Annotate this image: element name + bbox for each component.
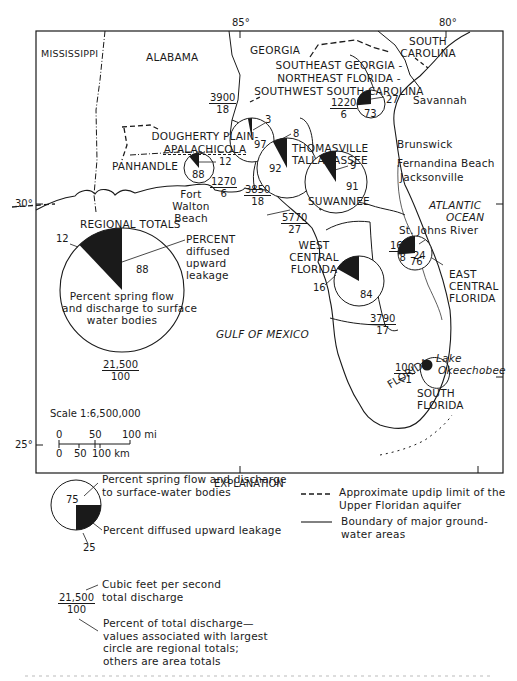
scale-km-100: 100 km (92, 448, 130, 459)
regional-spring-value: 88 (136, 264, 149, 275)
regional-leak-value: 12 (56, 233, 69, 244)
area-south-florida-discharge: 100 <1 (394, 362, 415, 385)
legend-spring-value: 75 (66, 494, 79, 505)
state-alabama: ALABAMA (146, 51, 199, 63)
area-panhandle-discharge: 1270 6 (210, 176, 237, 199)
latitude-30: 30° (15, 198, 33, 209)
west-central-spring: 84 (360, 289, 373, 300)
state-mississippi: MISSISSIPPI (41, 48, 98, 59)
se-georgia-leak: 27 (386, 94, 399, 105)
scale-mi-50: 50 (89, 429, 102, 440)
legend-spring-text: Percent spring flow and discharge to sur… (102, 473, 287, 499)
state-south-carolina: SOUTH CAROLINA (398, 35, 458, 59)
area-west-central-discharge: 3790 17 (369, 313, 396, 336)
legend-discharge-fraction: 21,500 100 (58, 592, 95, 615)
gulf-of-mexico: GULF OF MEXICO (216, 328, 309, 340)
area-south-florida-name: SOUTH FLORIDA (417, 387, 464, 411)
area-thomasville-name: THOMASVILLE TALLAHASSEE (292, 142, 368, 166)
st-johns-river: St. Johns River (399, 224, 478, 236)
panhandle-spring: 88 (192, 169, 205, 180)
atlantic-ocean: ATLANTIC OCEAN (426, 199, 484, 223)
area-east-central-name: EAST CENTRAL FLORIDA (449, 268, 499, 304)
regional-totals-title: REGIONAL TOTALS (80, 218, 181, 230)
longitude-80: 80° (439, 17, 457, 28)
area-suwannee-discharge: 5770 27 (281, 212, 308, 235)
scale-mi-100: 100 mi (122, 429, 157, 440)
east-central-spring: 76 (410, 256, 423, 267)
regional-spring-label: Percent spring flow and discharge to sur… (62, 290, 182, 326)
area-se-georgia-name: SOUTHEAST GEORGIA - NORTHEAST FLORIDA - … (254, 59, 424, 98)
scale-label: Scale 1:6,500,000 (50, 408, 141, 419)
legend-leak-value: 25 (83, 542, 96, 553)
city-brunswick: Brunswick (397, 138, 452, 150)
legend-leak-text: Percent diffused upward leakage (103, 524, 281, 536)
scale-mi-0: 0 (56, 429, 62, 440)
scale-bar (59, 440, 130, 448)
legend-percent-text: Percent of total discharge— values assoc… (103, 617, 268, 667)
west-central-leak: 16 (313, 282, 326, 293)
thomasville-spring: 92 (269, 163, 282, 174)
okeechobee-label: Okeechobee (438, 364, 506, 376)
area-panhandle-name: PANHANDLE (112, 160, 178, 172)
scale-km-50: 50 (74, 448, 87, 459)
area-west-central-name: WEST CENTRAL FLORIDA (284, 239, 344, 275)
scale-km-0: 0 (56, 448, 62, 459)
city-jacksonville: Jacksonville (400, 171, 464, 183)
se-georgia-spring: 73 (364, 108, 377, 119)
panhandle-leak: 12 (219, 156, 232, 167)
area-dougherty-name: DOUGHERTY PLAIN- APALACHICOLA (150, 130, 260, 156)
legend-flow-text: Cubic feet per second total discharge (102, 578, 221, 604)
city-fernandina-beach: Fernandina Beach (397, 157, 495, 169)
regional-leak-label: PERCENT diffused upward leakage (186, 233, 235, 281)
state-georgia: GEORGIA (250, 44, 300, 56)
area-dougherty-discharge: 3900 18 (209, 92, 236, 115)
area-thomasville-discharge: 3850 18 (244, 184, 271, 207)
legend-solid-text: Boundary of major ground- water areas (341, 515, 488, 541)
longitude-85: 85° (232, 17, 250, 28)
suwannee-spring: 91 (346, 181, 359, 192)
suwannee-leak: 9 (350, 160, 356, 171)
legend-dashed-text: Approximate updip limit of the Upper Flo… (339, 486, 505, 512)
thomasville-leak: 8 (293, 128, 299, 139)
latitude-25: 25° (15, 439, 33, 450)
lake-label: Lake (436, 352, 462, 364)
area-suwannee-name: SUWANNEE (308, 195, 370, 207)
regional-discharge: 21,500 100 (102, 359, 139, 382)
area-se-georgia-discharge: 1220 6 (330, 97, 357, 120)
dougherty-leak: 3 (265, 114, 271, 125)
